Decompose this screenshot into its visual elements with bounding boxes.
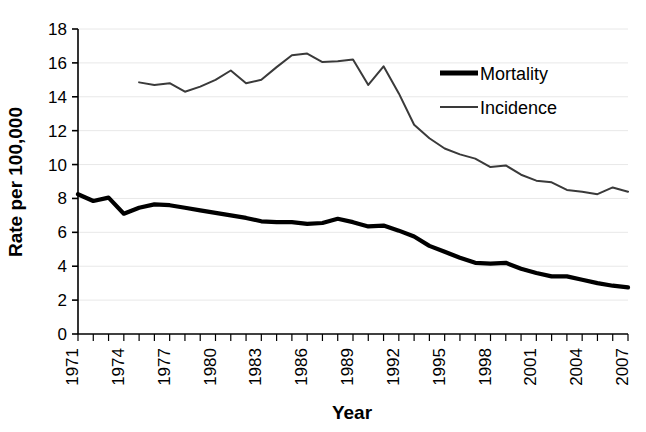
- x-axis-tick-label: 2004: [567, 348, 586, 386]
- series-line-mortality: [78, 194, 628, 287]
- legend: Mortality Incidence: [440, 64, 557, 118]
- legend-label-incidence: Incidence: [480, 98, 557, 118]
- y-axis-title: Rate per 100,000: [5, 107, 26, 257]
- y-axis-tick-label: 6: [58, 223, 67, 242]
- line-chart: 024681012141618 197119741977198019831986…: [0, 0, 646, 432]
- x-axis-tick-label: 1989: [338, 348, 357, 386]
- x-axis-tick-label: 2001: [521, 348, 540, 386]
- y-axis-tick-label: 8: [58, 189, 67, 208]
- x-axis-tick-label: 1995: [430, 348, 449, 386]
- legend-label-mortality: Mortality: [480, 64, 548, 84]
- series-line-incidence: [139, 54, 628, 195]
- x-axis-tick-label: 1998: [476, 348, 495, 386]
- data-series-group: [78, 54, 628, 288]
- y-axis-tick-label: 18: [48, 20, 67, 39]
- y-axis-tick-label: 14: [48, 88, 67, 107]
- x-axis-tick-label: 1977: [155, 348, 174, 386]
- x-axis-tick-label: 1980: [201, 348, 220, 386]
- y-axis-tick-label: 16: [48, 54, 67, 73]
- x-axis-tick-label: 1974: [109, 348, 128, 386]
- x-axis-tick-label: 1992: [384, 348, 403, 386]
- x-axis-tick-label: 1986: [292, 348, 311, 386]
- y-axis-tick-label: 4: [58, 257, 67, 276]
- y-axis-tick-labels: 024681012141618: [48, 20, 67, 344]
- x-axis-title: Year: [332, 402, 373, 423]
- y-axis-ticks-group: [72, 29, 78, 334]
- chart-container: 024681012141618 197119741977198019831986…: [0, 0, 646, 432]
- x-axis-ticks-group: [78, 334, 628, 341]
- y-axis-tick-label: 0: [58, 325, 67, 344]
- x-axis-tick-label: 2007: [613, 348, 632, 386]
- x-axis-tick-label: 1983: [246, 348, 265, 386]
- x-axis-tick-label: 1971: [63, 348, 82, 386]
- x-axis-tick-labels: 1971197419771980198319861989199219951998…: [63, 348, 632, 386]
- y-axis-tick-label: 10: [48, 156, 67, 175]
- y-axis-tick-label: 2: [58, 291, 67, 310]
- y-axis-tick-label: 12: [48, 122, 67, 141]
